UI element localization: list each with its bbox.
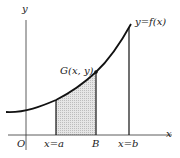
point-G-label: G(x, y) — [60, 65, 94, 76]
shaded-area — [56, 72, 96, 135]
point-G — [94, 70, 98, 74]
y-axis-label: y — [21, 3, 28, 14]
x-axis-label: x — [166, 128, 172, 139]
origin-label: O — [17, 138, 25, 149]
x-eq-b-label: x=b — [118, 138, 138, 149]
x-eq-a-label: x=a — [44, 138, 64, 149]
area-under-curve-diagram: y x O y=f(x) G(x, y) x=a B x=b — [0, 0, 180, 158]
B-label: B — [91, 138, 99, 149]
curve-label: y=f(x) — [134, 16, 166, 27]
